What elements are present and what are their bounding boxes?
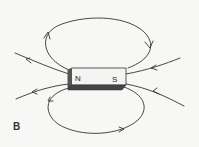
field-line-top-loop — [45, 18, 150, 70]
field-line-bottom-loop — [48, 87, 144, 133]
figure-label: B — [13, 121, 20, 132]
south-pole-label: S — [112, 75, 117, 84]
bar-magnet: N S — [68, 68, 126, 90]
field-line-upper-left — [15, 53, 69, 74]
field-line-lower-left — [16, 84, 69, 99]
arrow-icon — [26, 58, 31, 63]
field-line-lower-right — [126, 84, 184, 106]
north-pole-label: N — [75, 74, 81, 83]
field-line-upper-right — [126, 58, 180, 74]
magnet-field-diagram: N S — [0, 0, 199, 147]
arrow-icon — [145, 41, 153, 48]
